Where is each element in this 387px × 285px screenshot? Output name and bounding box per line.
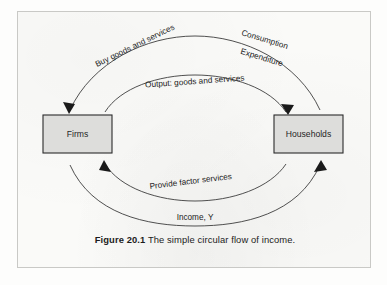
flow-label-provide-factor-services: Provide factor services (149, 172, 232, 191)
outer-ring-top-right-curve (195, 36, 320, 110)
flow-label-buy-goods-and-services: Buy goods and services (94, 23, 176, 69)
arrowhead-income-into-households (314, 160, 327, 172)
arrowhead-buy-goods-into-firms (63, 102, 75, 114)
figure-frame: Firms Households Buy goods and services … (17, 11, 371, 268)
figure-caption-text: The simple circular flow of income. (148, 234, 295, 245)
arrowhead-provide-factor-into-firms (99, 160, 111, 172)
figure-page: Firms Households Buy goods and services … (0, 0, 387, 285)
arrowhead-output-into-households (281, 104, 294, 115)
flow-label-output-goods-and-services: Output: goods and services (145, 74, 245, 90)
flow-label-expenditure: Expenditure (240, 47, 285, 69)
node-label-households: Households (286, 129, 331, 139)
circular-flow-diagram: Firms Households Buy goods and services … (18, 12, 372, 269)
figure-caption: Figure 20.1 The simple circular flow of … (18, 234, 372, 245)
node-label-firms: Firms (67, 129, 88, 139)
flow-label-income-y: Income, Y (177, 213, 214, 222)
figure-caption-number: Figure 20.1 (95, 234, 146, 245)
